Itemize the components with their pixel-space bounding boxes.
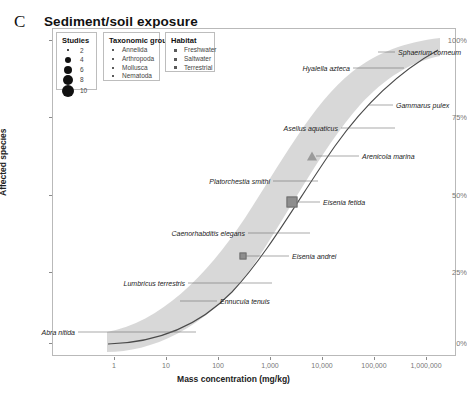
y-tickmark-50 (49, 195, 52, 196)
species-label-caenorhabditis-elegans: Caenorhabditis elegans (171, 230, 245, 237)
marker-arenicola-marina[interactable] (307, 152, 317, 161)
y-tickmark-100 (49, 40, 52, 41)
species-label-abra-nitida: Abra nitida (42, 329, 75, 336)
legend-studies-title: Studies (62, 36, 89, 45)
species-label-ennucula-tenuis: Ennucula tenuis (220, 298, 270, 305)
species-label-sphaerium-corneum: Sphaerium corneum (398, 49, 461, 56)
x-tick-1: 1 (112, 362, 116, 369)
x-tick-100000: 100,000 (361, 362, 386, 369)
x-tickmark-10 (166, 357, 167, 360)
y-tickmark-25 (49, 272, 52, 273)
legend-marker-freshwater (174, 49, 177, 52)
x-tick-10: 10 (162, 362, 170, 369)
x-axis-title: Mass concentration (mg/kg) (0, 374, 467, 384)
species-label-lumbricus-terrestris: Lumbricus terrestris (124, 280, 185, 287)
legend-taxonomic-group: Taxonomic group Annelida Arthropoda Moll… (103, 32, 160, 81)
legend-marker-terrestrial (174, 66, 177, 69)
species-label-asellus-aquaticus: Asellus aquaticus (284, 125, 338, 132)
legend-dot-4 (65, 57, 71, 63)
y-tick-75: 75% (419, 113, 467, 122)
x-tickmark-100000 (374, 357, 375, 360)
legend-studies-item-10: 10 (80, 87, 87, 94)
y-tick-0: 0% (419, 339, 467, 348)
x-tick-1000: 1,000 (261, 362, 279, 369)
marker-eisenia-fetida[interactable] (287, 197, 298, 208)
legend-habitat-item-freshwater: Freshwater (184, 46, 217, 53)
x-tick-100: 100 (212, 362, 224, 369)
legend-habitat-title: Habitat (171, 36, 196, 45)
legend-habitat-item-saltwater: Saltwater (184, 55, 211, 62)
x-tick-10000: 10,000 (311, 362, 332, 369)
legend-marker-nematoda (112, 75, 114, 77)
species-label-eisenia-fetida: Eisenia fetida (323, 199, 365, 206)
legend-dot-8 (63, 75, 73, 85)
species-label-eisenia-andrei: Eisenia andrei (292, 253, 336, 260)
species-label-arenicola-marina: Arenicola marina (362, 153, 415, 160)
species-label-gammarus-pulex: Gammarus pulex (396, 102, 449, 109)
legend-studies-item-8: 8 (80, 76, 84, 83)
legend-marker-arthropoda (112, 58, 114, 60)
x-tickmark-1000000 (426, 357, 427, 360)
legend-taxonomic-item-mollusca: Mollusca (122, 64, 148, 71)
legend-studies: Studies 2 4 6 8 10 (56, 32, 97, 90)
y-tick-50: 50% (419, 191, 467, 200)
panel-letter: C (14, 12, 25, 32)
legend-taxonomic-item-arthropoda: Arthropoda (122, 55, 154, 62)
x-tickmark-10000 (322, 357, 323, 360)
legend-dot-6 (64, 66, 72, 74)
legend-habitat: Habitat Freshwater Saltwater Terrestrial (165, 32, 215, 72)
legend-marker-mollusca (112, 67, 114, 69)
y-tick-25: 25% (419, 268, 467, 277)
legend-taxonomic-title: Taxonomic group (109, 36, 171, 45)
y-tickmark-0 (49, 343, 52, 344)
x-tickmark-1000 (270, 357, 271, 360)
legend-studies-item-2: 2 (80, 47, 84, 54)
x-tickmark-100 (218, 357, 219, 360)
y-tickmark-75 (49, 117, 52, 118)
legend-taxonomic-item-annelida: Annelida (122, 46, 147, 53)
legend-habitat-item-terrestrial: Terrestrial (184, 64, 213, 71)
legend-dot-10 (62, 85, 74, 97)
page-title: Sediment/soil exposure (44, 14, 198, 29)
species-label-hyalella-azteca: Hyalella azteca (303, 65, 350, 72)
x-tick-1000000: 1,000,000 (410, 362, 441, 369)
chart-panel: C Sediment/soil exposure 100% 75% 50% 25… (0, 0, 467, 396)
legend-marker-saltwater (174, 58, 177, 61)
y-axis-title: Affected species (0, 128, 8, 196)
marker-eisenia-andrei[interactable] (240, 253, 247, 260)
legend-studies-item-4: 4 (80, 56, 84, 63)
legend-dot-2 (67, 49, 69, 51)
legend-marker-annelida (112, 49, 114, 51)
x-tickmark-1 (114, 357, 115, 360)
species-label-platorchestia-smithi: Platorchestia smithi (209, 178, 270, 185)
legend-taxonomic-item-nematoda: Nematoda (122, 72, 152, 79)
legend-studies-item-6: 6 (80, 66, 84, 73)
y-tick-100: 100% (419, 36, 467, 45)
